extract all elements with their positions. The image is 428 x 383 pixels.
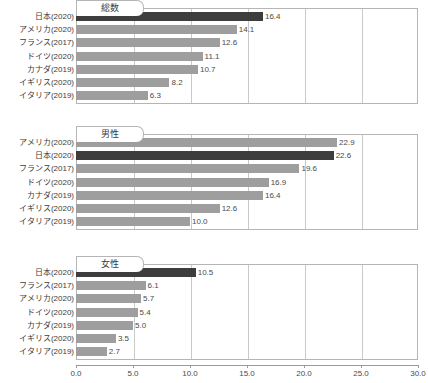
category-label: イギリス(2020) [0, 76, 74, 89]
bar [76, 65, 198, 74]
chart-row: フランス(2017)19.6 [0, 162, 428, 175]
chart-row: イタリア(2019)6.3 [0, 89, 428, 102]
bar [76, 164, 299, 173]
category-label: カナダ(2019) [0, 189, 74, 202]
bar-chart-figure: 総数日本(2020)16.4アメリカ(2020)14.1フランス(2017)12… [0, 0, 428, 383]
panel-rows: アメリカ(2020)22.9日本(2020)22.6フランス(2017)19.6… [0, 136, 428, 228]
category-label: イギリス(2020) [0, 202, 74, 215]
category-label: フランス(2017) [0, 162, 74, 175]
panel-rows: 日本(2020)10.5フランス(2017)6.1アメリカ(2020)5.7ドイ… [0, 266, 428, 358]
bar-value-label: 11.1 [205, 50, 220, 63]
bar-value-label: 3.5 [118, 332, 129, 345]
bar [76, 204, 220, 213]
category-label: アメリカ(2020) [0, 136, 74, 149]
bar-value-label: 10.0 [192, 215, 208, 228]
bar-value-label: 5.0 [135, 319, 146, 332]
bar-value-label: 16.4 [265, 10, 281, 23]
category-label: カナダ(2019) [0, 63, 74, 76]
category-label: イタリア(2019) [0, 345, 74, 358]
x-axis-tick-label: 15.0 [239, 369, 255, 378]
bar-value-label: 6.3 [150, 89, 161, 102]
category-label: ドイツ(2020) [0, 306, 74, 319]
x-axis-tick [418, 365, 419, 368]
bar-value-label: 12.6 [222, 202, 238, 215]
chart-panel-2: 男性アメリカ(2020)22.9日本(2020)22.6フランス(2017)19… [0, 126, 428, 230]
bar-value-label: 10.7 [200, 63, 216, 76]
chart-row: ドイツ(2020)11.1 [0, 50, 428, 63]
chart-row: カナダ(2019)16.4 [0, 189, 428, 202]
bar-value-label: 12.6 [222, 36, 238, 49]
bar [76, 178, 269, 187]
chart-row: イギリス(2020)12.6 [0, 202, 428, 215]
bar [76, 91, 148, 100]
x-axis-tick-label: 0.0 [70, 369, 81, 378]
bar-value-label: 5.7 [143, 292, 154, 305]
bar [76, 217, 190, 226]
chart-row: 日本(2020)22.6 [0, 149, 428, 162]
category-label: カナダ(2019) [0, 319, 74, 332]
bar-value-label: 22.9 [339, 136, 355, 149]
chart-row: アメリカ(2020)14.1 [0, 23, 428, 36]
chart-row: カナダ(2019)5.0 [0, 319, 428, 332]
category-label: 日本(2020) [0, 10, 74, 23]
bar [76, 294, 141, 303]
bar [76, 78, 169, 87]
chart-row: イギリス(2020)3.5 [0, 332, 428, 345]
chart-row: イタリア(2019)2.7 [0, 345, 428, 358]
bar [76, 334, 116, 343]
category-label: ドイツ(2020) [0, 176, 74, 189]
bar [76, 25, 237, 34]
x-axis-tick-label: 5.0 [127, 369, 138, 378]
bar-value-label: 19.6 [301, 162, 317, 175]
bar [76, 347, 107, 356]
bar-value-label: 8.2 [171, 76, 182, 89]
bar [76, 38, 220, 47]
bar [76, 321, 133, 330]
chart-row: 日本(2020)10.5 [0, 266, 428, 279]
bar [76, 308, 138, 317]
category-label: ドイツ(2020) [0, 50, 74, 63]
panel-title-tab: 女性 [76, 256, 144, 272]
bar-value-label: 16.4 [265, 189, 281, 202]
panel-title-label: 女性 [101, 260, 120, 269]
bar-value-label: 5.4 [140, 306, 151, 319]
panel-title-tab: 男性 [76, 126, 144, 142]
panel-title-tab: 総数 [76, 0, 144, 16]
chart-row: 日本(2020)16.4 [0, 10, 428, 23]
chart-row: アメリカ(2020)22.9 [0, 136, 428, 149]
x-axis-tick [304, 365, 305, 368]
chart-row: ドイツ(2020)16.9 [0, 176, 428, 189]
category-label: アメリカ(2020) [0, 292, 74, 305]
category-label: イタリア(2019) [0, 89, 74, 102]
chart-row: イギリス(2020)8.2 [0, 76, 428, 89]
bar [76, 52, 203, 61]
bar [76, 191, 263, 200]
chart-row: アメリカ(2020)5.7 [0, 292, 428, 305]
chart-row: フランス(2017)12.6 [0, 36, 428, 49]
x-axis-tick-label: 25.0 [353, 369, 369, 378]
panel-title-label: 総数 [101, 4, 120, 13]
chart-row: フランス(2017)6.1 [0, 279, 428, 292]
bar-value-label: 14.1 [239, 23, 255, 36]
x-axis-tick-label: 20.0 [296, 369, 312, 378]
x-axis-tick-label: 30.0 [410, 369, 426, 378]
x-axis-tick [76, 365, 77, 368]
category-label: アメリカ(2020) [0, 23, 74, 36]
bar-value-label: 22.6 [336, 149, 352, 162]
category-label: フランス(2017) [0, 36, 74, 49]
x-axis-tick [247, 365, 248, 368]
x-axis-tick-label: 10.0 [182, 369, 198, 378]
x-axis-tick [133, 365, 134, 368]
bar [76, 151, 334, 160]
category-label: イギリス(2020) [0, 332, 74, 345]
category-label: イタリア(2019) [0, 215, 74, 228]
chart-panel-1: 総数日本(2020)16.4アメリカ(2020)14.1フランス(2017)12… [0, 0, 428, 104]
panel-rows: 日本(2020)16.4アメリカ(2020)14.1フランス(2017)12.6… [0, 10, 428, 102]
bar-value-label: 2.7 [109, 345, 120, 358]
chart-row: ドイツ(2020)5.4 [0, 306, 428, 319]
bar-value-label: 10.5 [198, 266, 214, 279]
chart-row: カナダ(2019)10.7 [0, 63, 428, 76]
chart-panel-3: 女性日本(2020)10.5フランス(2017)6.1アメリカ(2020)5.7… [0, 256, 428, 360]
category-label: 日本(2020) [0, 149, 74, 162]
bar-value-label: 16.9 [271, 176, 287, 189]
